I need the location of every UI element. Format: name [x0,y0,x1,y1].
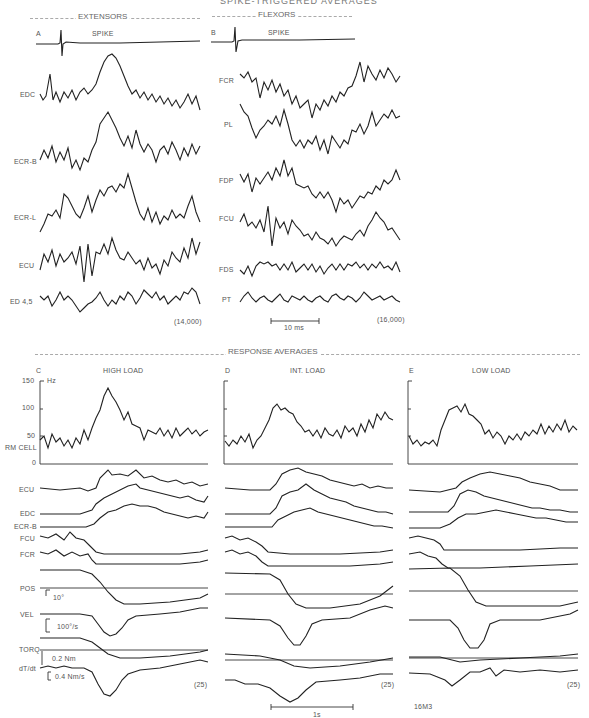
emg-edc-d [225,484,393,514]
trace-edc [40,54,200,110]
axis-e [408,381,578,464]
pos-trace-e [409,568,578,606]
scale-bar-dtdt [48,672,51,680]
emg-ecr-b-e [409,510,578,528]
scale-bar-1s [271,704,353,710]
rate-trace-high [40,388,208,448]
pos-trace-c [40,570,208,604]
vel-trace-e [409,610,578,648]
emg-fcr-c [40,550,208,564]
emg-ecr-b-c [40,504,208,527]
figure-traces [0,0,589,718]
axis-c [40,381,208,464]
vel-trace-d [225,606,393,645]
trace-fcr [240,62,400,118]
torq-trace-d [225,654,393,668]
dtdt-trace-e [409,668,578,686]
emg-edc-e [409,490,578,512]
emg-fcu-e [409,536,578,550]
trace-ecr-b [40,112,200,170]
torq-trace-c [40,638,208,658]
emg-ecu-e [409,472,578,492]
emg-fcr-e [409,552,578,568]
emg-fcu-c [40,532,208,554]
emg-fcu-d [225,536,393,554]
trace-pl [240,104,400,154]
trace-pt [240,292,400,302]
trace-fcu [240,206,400,246]
rate-trace-low [409,404,577,446]
spike-trace-a [36,30,200,56]
vel-trace-c [40,608,208,636]
trace-ecr-l [40,174,200,232]
trace-fds [240,262,400,276]
pos-trace-d [225,573,393,608]
trace-ed45 [40,288,200,312]
trace-fdp [240,160,400,212]
scale-bar-pos [46,590,50,596]
emg-ecr-b-d [225,508,393,528]
spike-trace-b [211,27,355,52]
scale-bar-10ms [271,318,319,324]
emg-edc-c [40,484,208,514]
trace-ecu [40,238,200,282]
scale-bar-vel [46,619,50,632]
rate-trace-int [225,404,393,448]
dtdt-trace-c [40,660,208,696]
dtdt-trace-d [225,674,393,702]
